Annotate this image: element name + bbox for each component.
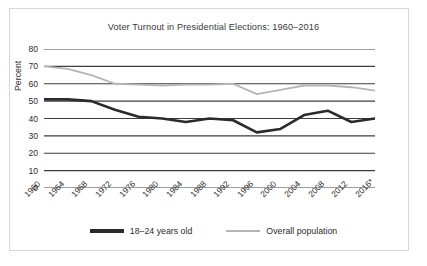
y-tick-label: 60 <box>28 79 38 89</box>
y-tick-label: 30 <box>28 131 38 141</box>
series-line-overall <box>44 66 375 94</box>
y-tick-label: 70 <box>28 61 38 71</box>
legend-swatch-youth <box>90 229 124 232</box>
series-line-youth <box>44 99 375 132</box>
legend-label-overall: Overall population <box>266 226 337 236</box>
chart-canvas <box>44 49 375 188</box>
chart-title: Voter Turnout in Presidential Elections:… <box>0 22 427 32</box>
y-axis-label: Percent <box>13 61 23 91</box>
y-tick-label: 20 <box>28 148 38 158</box>
legend-item-overall: Overall population <box>226 226 337 236</box>
legend-item-youth: 18–24 years old <box>90 226 193 236</box>
y-tick-label: 80 <box>28 44 38 54</box>
y-tick-label: 50 <box>28 96 38 106</box>
y-tick-label: 40 <box>28 114 38 124</box>
plot-area <box>44 49 375 188</box>
legend-swatch-overall <box>226 230 260 233</box>
legend-label-youth: 18–24 years old <box>130 226 193 236</box>
chart-legend: 18–24 years old Overall population <box>0 226 427 236</box>
chart-figure: Voter Turnout in Presidential Elections:… <box>0 0 427 266</box>
y-tick-label: 10 <box>28 166 38 176</box>
data-series-layer <box>44 66 375 132</box>
